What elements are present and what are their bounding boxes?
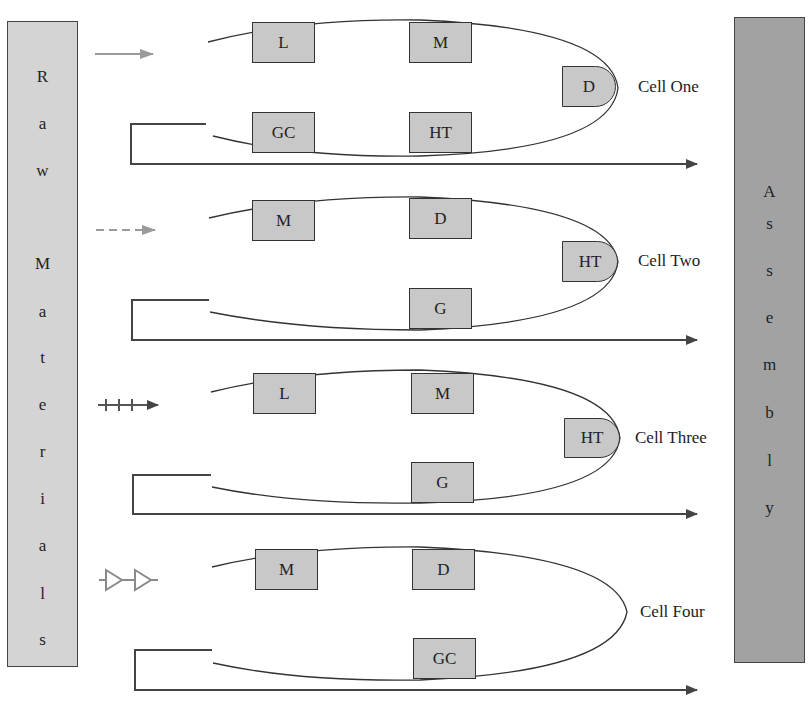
machine-label: L bbox=[278, 33, 288, 53]
machine-drill: D bbox=[409, 198, 472, 239]
cell-one-label: Cell One bbox=[638, 77, 699, 97]
machine-gear-cutter: GC bbox=[252, 112, 315, 153]
machine-label: G bbox=[434, 299, 446, 319]
machine-heat-treat: HT bbox=[562, 241, 618, 282]
machine-label: L bbox=[279, 384, 289, 404]
machine-mill: M bbox=[409, 22, 472, 63]
input-arrow-plus bbox=[98, 399, 158, 411]
machine-mill: M bbox=[255, 549, 318, 590]
input-arrow-triangles bbox=[99, 570, 158, 590]
machine-label: GC bbox=[433, 649, 457, 669]
machine-mill: M bbox=[411, 373, 474, 414]
machine-drill: D bbox=[412, 549, 475, 590]
machine-gear-cutter: GC bbox=[413, 638, 476, 679]
machine-lathe: L bbox=[253, 373, 316, 414]
cell-three-label: Cell Three bbox=[635, 428, 707, 448]
machine-label: M bbox=[433, 33, 448, 53]
machine-label: GC bbox=[272, 123, 296, 143]
machine-label: M bbox=[435, 384, 450, 404]
machine-grinder: G bbox=[411, 462, 474, 503]
machine-mill: M bbox=[252, 200, 315, 241]
machine-label: D bbox=[434, 209, 446, 229]
machine-label: M bbox=[276, 211, 291, 231]
machine-drill: D bbox=[562, 66, 616, 107]
machine-label: HT bbox=[429, 123, 452, 143]
machine-label: D bbox=[437, 560, 449, 580]
machine-label: M bbox=[279, 560, 294, 580]
cell-four-label: Cell Four bbox=[640, 602, 705, 622]
cell-two-label: Cell Two bbox=[638, 251, 700, 271]
machine-lathe: L bbox=[252, 22, 315, 63]
machine-heat-treat: HT bbox=[564, 418, 620, 458]
machine-label: D bbox=[583, 77, 595, 97]
machine-grinder: G bbox=[409, 288, 472, 329]
machine-label: HT bbox=[579, 252, 602, 272]
machine-label: G bbox=[436, 473, 448, 493]
machine-heat-treat: HT bbox=[409, 112, 472, 153]
machine-label: HT bbox=[581, 428, 604, 448]
